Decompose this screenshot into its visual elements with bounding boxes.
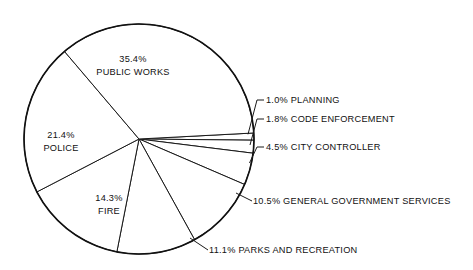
leader-line-parks-and-recreation (190, 238, 208, 250)
slice-label-code-enforcement: 1.8% CODE ENFORCEMENT (266, 114, 395, 124)
pie-chart-canvas: 35.4% PUBLIC WORKS 21.4% POLICE 14.3% FI… (0, 0, 473, 270)
slice-label-public-works-percent: 35.4% (119, 54, 146, 64)
slice-label-public-works-name: PUBLIC WORKS (96, 67, 169, 77)
slice-label-general-government-services: 10.5% GENERAL GOVERNMENT SERVICES (253, 196, 451, 206)
slice-label-parks-and-recreation: 11.1% PARKS AND RECREATION (209, 245, 357, 255)
slice-label-city-controller: 4.5% CITY CONTROLLER (266, 142, 381, 152)
pie-chart: 35.4% PUBLIC WORKS 21.4% POLICE 14.3% FI… (0, 0, 473, 270)
slice-label-fire-name: FIRE (98, 206, 120, 216)
slice-label-planning: 1.0% PLANNING (266, 95, 340, 105)
slice-label-fire-percent: 14.3% (95, 193, 122, 203)
slice-label-police-percent: 21.4% (47, 130, 74, 140)
slice-label-police-name: POLICE (43, 143, 78, 153)
